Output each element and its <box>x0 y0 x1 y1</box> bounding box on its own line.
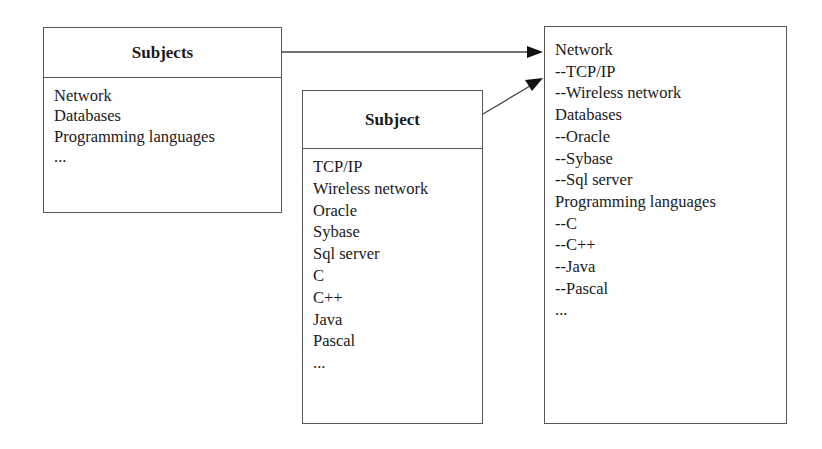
list-item: Databases <box>555 104 786 126</box>
subject-header: Subject <box>303 91 482 149</box>
subjects-header: Subjects <box>44 28 281 78</box>
arrow-subjects-to-result <box>282 46 543 58</box>
list-item: Programming languages <box>54 127 281 147</box>
list-item: --Java <box>555 256 786 278</box>
list-item: Java <box>313 309 482 331</box>
subject-box: Subject TCP/IP Wireless network Oracle S… <box>302 90 483 424</box>
list-item: Sybase <box>313 221 482 243</box>
list-item: --Oracle <box>555 126 786 148</box>
list-item: --Wireless network <box>555 82 786 104</box>
list-item: --C <box>555 213 786 235</box>
result-list: Network --TCP/IP --Wireless network Data… <box>545 27 786 321</box>
list-item: --Sql server <box>555 169 786 191</box>
arrow-subject-to-result <box>483 78 543 114</box>
subject-list: TCP/IP Wireless network Oracle Sybase Sq… <box>303 149 482 374</box>
subjects-title: Subjects <box>132 43 193 63</box>
list-item: Pascal <box>313 330 482 352</box>
list-item: --TCP/IP <box>555 61 786 83</box>
result-box: Network --TCP/IP --Wireless network Data… <box>544 26 787 424</box>
list-item: Programming languages <box>555 191 786 213</box>
list-item: TCP/IP <box>313 156 482 178</box>
list-item: ... <box>54 147 281 167</box>
list-item: --Sybase <box>555 148 786 170</box>
list-item: Sql server <box>313 243 482 265</box>
subject-title: Subject <box>365 110 420 130</box>
list-item: Network <box>555 39 786 61</box>
list-item: Wireless network <box>313 178 482 200</box>
list-item: C <box>313 265 482 287</box>
list-item: Oracle <box>313 200 482 222</box>
list-item: ... <box>555 299 786 321</box>
list-item: Databases <box>54 106 281 126</box>
list-item: --C++ <box>555 234 786 256</box>
subjects-list: Network Databases Programming languages … <box>44 78 281 168</box>
list-item: C++ <box>313 287 482 309</box>
list-item: --Pascal <box>555 278 786 300</box>
subjects-box: Subjects Network Databases Programming l… <box>43 27 282 213</box>
list-item: Network <box>54 86 281 106</box>
list-item: ... <box>313 352 482 374</box>
